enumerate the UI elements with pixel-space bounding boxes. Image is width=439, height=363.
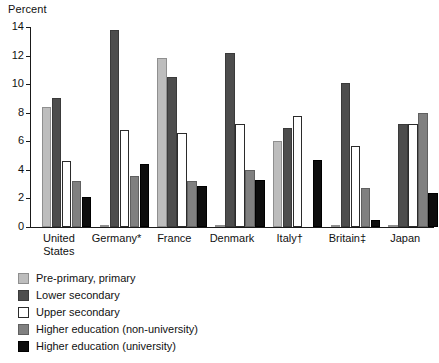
legend-swatch-icon (18, 290, 29, 301)
y-tick-6: 6 (30, 141, 35, 142)
bar (418, 113, 427, 227)
legend-item: Upper secondary (18, 305, 418, 320)
y-tick-2: 2 (30, 198, 35, 199)
legend-swatch-icon (18, 273, 29, 284)
bar (215, 225, 224, 227)
bar-group (215, 27, 264, 227)
x-axis-label: United States (30, 232, 88, 258)
bar (408, 124, 417, 227)
y-tick-12: 12 (30, 56, 35, 57)
x-axis-label: Britain‡ (319, 232, 377, 245)
bar (110, 30, 119, 227)
bar (197, 186, 206, 227)
x-axis-line (30, 227, 434, 228)
bar (42, 107, 51, 227)
bar-group (388, 27, 437, 227)
bar (351, 146, 360, 227)
bar (62, 161, 71, 227)
x-axis-label: Italy† (261, 232, 319, 245)
bar-chart: Percent 02468101214 United StatesGermany… (0, 0, 439, 363)
y-tick-8: 8 (30, 113, 35, 114)
legend-item: Higher education (non-university) (18, 322, 418, 337)
legend-label: Higher education (university) (36, 340, 176, 353)
bar (255, 180, 264, 227)
y-tick-mark (26, 141, 31, 142)
y-tick-label: 0 (18, 220, 24, 233)
bar-group (100, 27, 149, 227)
y-axis-line (30, 27, 31, 227)
legend-swatch-icon (18, 324, 29, 335)
x-axis-label: France (145, 232, 203, 245)
legend-label: Lower secondary (36, 289, 120, 302)
x-axis-label: Denmark (203, 232, 261, 245)
y-tick-mark (26, 56, 31, 57)
y-tick-mark (26, 27, 31, 28)
bar (140, 164, 149, 227)
plot-area: 02468101214 (30, 27, 434, 227)
y-tick-mark (26, 84, 31, 85)
y-axis-title: Percent (8, 3, 47, 16)
bar-group (273, 27, 322, 227)
bar (167, 77, 176, 227)
legend-item: Pre-primary, primary (18, 271, 418, 286)
bar (331, 225, 340, 227)
x-axis-category-labels: United StatesGermany*FranceDenmarkItaly†… (30, 232, 434, 266)
bar (52, 98, 61, 227)
y-tick-label: 2 (18, 191, 24, 204)
chart-legend: Pre-primary, primaryLower secondaryUpper… (18, 271, 418, 356)
y-tick-14: 14 (30, 27, 35, 28)
bar (398, 124, 407, 227)
legend-item: Higher education (university) (18, 339, 418, 354)
legend-item: Lower secondary (18, 288, 418, 303)
bar (313, 160, 322, 227)
y-tick-0: 0 (30, 227, 35, 228)
y-tick-mark (26, 170, 31, 171)
bar (157, 58, 166, 227)
y-tick-10: 10 (30, 84, 35, 85)
bar (100, 225, 109, 227)
bar (245, 170, 254, 227)
y-tick-label: 4 (18, 163, 24, 176)
bar (273, 141, 282, 227)
x-axis-label: Germany* (88, 232, 146, 245)
y-tick-mark (26, 113, 31, 114)
bar (82, 197, 91, 227)
x-axis-label: Japan (376, 232, 434, 245)
bar (177, 133, 186, 227)
bar (371, 220, 380, 227)
y-tick-mark (26, 198, 31, 199)
bar (388, 225, 397, 227)
y-tick-label: 6 (18, 134, 24, 147)
bar (187, 181, 196, 227)
y-tick-label: 10 (12, 77, 24, 90)
bar (428, 193, 437, 227)
bar (361, 188, 370, 227)
bar (120, 130, 129, 227)
legend-label: Upper secondary (36, 306, 120, 319)
bar (283, 128, 292, 227)
y-tick-label: 12 (12, 49, 24, 62)
legend-swatch-icon (18, 341, 29, 352)
y-tick-label: 8 (18, 106, 24, 119)
y-tick-4: 4 (30, 170, 35, 171)
bar (72, 181, 81, 227)
bar-group (157, 27, 206, 227)
y-tick-label: 14 (12, 20, 24, 33)
bar (341, 83, 350, 227)
bar (225, 53, 234, 227)
bar (130, 176, 139, 227)
bar (235, 124, 244, 227)
bar-group (331, 27, 380, 227)
legend-label: Higher education (non-university) (36, 323, 198, 336)
bar (293, 116, 302, 227)
bar-group (42, 27, 91, 227)
y-tick-mark (26, 227, 31, 228)
legend-label: Pre-primary, primary (36, 272, 135, 285)
legend-swatch-icon (18, 307, 29, 318)
